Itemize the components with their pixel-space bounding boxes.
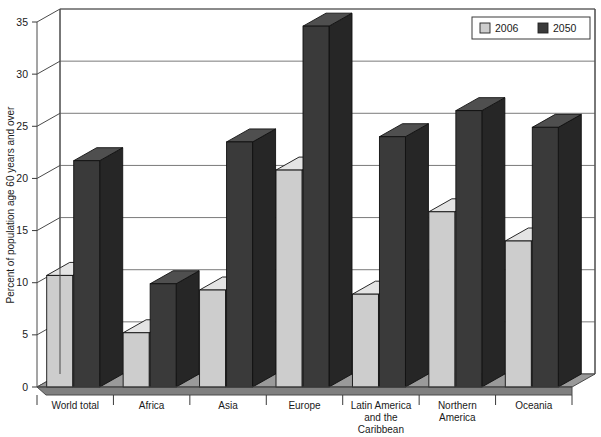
x-category-label-line: America (439, 412, 476, 423)
y-tick-label: 25 (16, 120, 28, 132)
y-tick-label: 15 (16, 224, 28, 236)
y-tick-label: 20 (16, 172, 28, 184)
legend-label-text: 2006 (495, 22, 519, 34)
legend: 20062050 (472, 17, 590, 39)
x-category-label: Asia (218, 400, 238, 411)
y-axis-tick-labels: 05101520253035 (16, 16, 37, 393)
x-category-label: Latin Americaand theCaribbean (351, 400, 412, 435)
x-category-label-line: Europe (288, 400, 321, 411)
x-category-label-line: World total (51, 400, 99, 411)
x-category-label-line: Northern (438, 400, 477, 411)
x-category-label: World total (51, 400, 99, 411)
x-category-label-line: Asia (218, 400, 238, 411)
x-category-label-line: Latin America (351, 400, 412, 411)
x-category-label-line: and the (364, 412, 398, 423)
bars-layer (47, 13, 582, 387)
bar-chart-3d: 05101520253035 World totalAfricaAsiaEuro… (0, 0, 601, 437)
x-category-label-line: Oceania (515, 400, 553, 411)
x-category-label: Africa (139, 400, 165, 411)
chart-container: 05101520253035 World totalAfricaAsiaEuro… (0, 0, 601, 437)
bar-northern-america-2050 (456, 98, 505, 387)
x-category-label: Europe (288, 400, 321, 411)
y-tick-label: 5 (22, 328, 28, 340)
bar-latin-america-and-the-caribbean-2050 (379, 124, 428, 387)
bar-asia-2050 (227, 129, 276, 387)
y-axis-title-text: Percent of population age 60 years and o… (5, 106, 16, 303)
legend-swatch (480, 23, 490, 33)
legend-entry-2050: 2050 (538, 22, 577, 34)
bar-europe-2050 (303, 13, 352, 387)
legend-label-text: 2050 (553, 22, 577, 34)
x-axis-category-labels: World totalAfricaAsiaEuropeLatin America… (37, 395, 572, 435)
x-category-label: Oceania (515, 400, 553, 411)
x-category-label-line: Caribbean (358, 424, 404, 435)
y-tick-label: 0 (22, 381, 28, 393)
bar-africa-2050 (150, 271, 199, 387)
x-category-label-line: Africa (139, 400, 165, 411)
legend-entry-2006: 2006 (480, 22, 519, 34)
y-tick-label: 30 (16, 68, 28, 80)
legend-swatch (538, 23, 548, 33)
y-tick-label: 35 (16, 16, 28, 28)
x-category-label: NorthernAmerica (438, 400, 477, 423)
y-axis-title: Percent of population age 60 years and o… (5, 106, 16, 303)
bar-oceania-2050 (532, 114, 581, 387)
y-tick-label: 10 (16, 276, 28, 288)
bar-world-total-2050 (74, 148, 123, 387)
